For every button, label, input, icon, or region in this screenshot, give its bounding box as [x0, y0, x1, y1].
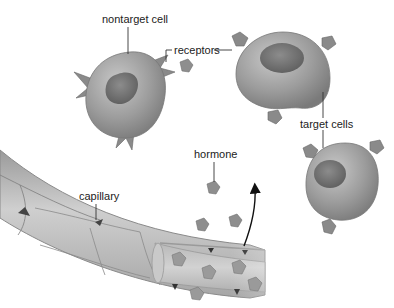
target-cell-2	[303, 140, 384, 234]
target-cell-1	[232, 32, 336, 124]
nontarget-cell	[74, 52, 175, 150]
label-target-cells: target cells	[300, 118, 353, 130]
label-receptors: receptors	[174, 44, 220, 56]
label-hormone: hormone	[194, 148, 237, 160]
movement-arrow	[244, 188, 255, 246]
hormone-target-cell-diagram: nontarget cell receptors target cells ho…	[0, 0, 394, 308]
label-nontarget-cell: nontarget cell	[102, 13, 168, 25]
label-capillary: capillary	[79, 190, 119, 202]
hormones-free	[180, 59, 242, 231]
